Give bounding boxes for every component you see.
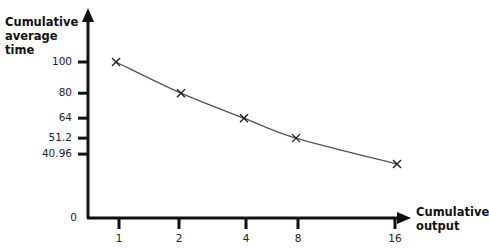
x-tick-label: 2 bbox=[164, 232, 194, 244]
y-tick-label: 64 bbox=[12, 111, 72, 123]
x-marker-icon bbox=[240, 114, 248, 122]
y-tick-label: 40.96 bbox=[12, 147, 72, 159]
y-tick-label: 51.2 bbox=[12, 131, 72, 143]
x-tick-label: 4 bbox=[231, 232, 261, 244]
x-tick-label: 8 bbox=[283, 232, 313, 244]
x-marker-icon bbox=[292, 134, 300, 142]
x-tick-label: 1 bbox=[104, 232, 134, 244]
x-axis-arrow-icon bbox=[397, 212, 411, 224]
x-marker-icon bbox=[393, 160, 401, 168]
x-marker-icon bbox=[177, 89, 185, 97]
y-tick-label: 80 bbox=[12, 86, 72, 98]
data-curve bbox=[116, 62, 397, 164]
x-marker-icon bbox=[112, 58, 120, 66]
y-tick-label: 100 bbox=[12, 55, 72, 67]
origin-label: 0 bbox=[17, 211, 77, 223]
x-tick-label: 16 bbox=[380, 232, 410, 244]
y-axis-arrow-icon bbox=[82, 8, 94, 22]
